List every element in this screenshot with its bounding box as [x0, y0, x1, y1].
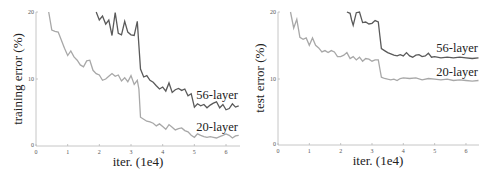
x-tick-label-0: 0 [35, 149, 38, 155]
x-tick-label-2: 2 [98, 149, 101, 155]
series-label-56-layer: 56-layer [196, 88, 238, 102]
x-tick-label-1: 1 [308, 148, 311, 154]
x-tick-label-5: 5 [433, 148, 436, 154]
figure: training error (%) 20 10 0 0123456 iter.… [0, 0, 492, 178]
y-tick-label-10: 10 [270, 76, 276, 82]
x-tick-label-2: 2 [339, 148, 342, 154]
test-error-chart: test error (%) 20 10 0 0123456 iter. (1e… [252, 9, 479, 168]
x-tick-label-5: 5 [193, 149, 196, 155]
y-axis-label: test error (%) [252, 43, 267, 112]
y-tick-label-0: 0 [273, 141, 276, 147]
y-ticks: 20 10 0 [28, 9, 38, 148]
y-axis-label: training error (%) [10, 33, 25, 125]
y-tick-label-10: 10 [28, 76, 34, 82]
x-axis-label: iter. (1e4) [353, 153, 404, 168]
series-label-56-layer: 56-layer [436, 41, 478, 55]
series-label-20-layer: 20-layer [436, 65, 478, 79]
x-tick-label-6: 6 [464, 148, 467, 154]
y-tick-label-20: 20 [28, 9, 34, 15]
x-axis-label: iter. (1e4) [113, 154, 164, 169]
y-ticks: 20 10 0 [270, 9, 280, 147]
series-label-20-layer: 20-layer [196, 120, 238, 134]
y-tick-label-0: 0 [31, 142, 34, 148]
training-error-chart: training error (%) 20 10 0 0123456 iter.… [10, 9, 240, 169]
x-tick-label-0: 0 [277, 148, 280, 154]
x-tick-label-1: 1 [66, 149, 69, 155]
y-tick-label-20: 20 [270, 9, 276, 15]
x-tick-label-6: 6 [225, 149, 228, 155]
